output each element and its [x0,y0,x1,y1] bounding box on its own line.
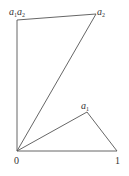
segment-0-to-a2 [17,14,96,151]
label-origin: 0 [14,155,19,166]
label-a1a2: a1a2 [9,6,25,18]
label-a2: a2 [97,6,105,18]
complex-plane-diagram: 0 1 a1 a2 a1a2 [0,0,129,176]
label-a2-sub: 2 [102,12,105,18]
segment-1-to-a1 [87,112,117,151]
segment-0-to-a1 [17,112,87,151]
label-one: 1 [115,155,120,166]
label-a1a2-sub2: 2 [22,12,25,18]
label-a1-sub: 1 [86,106,89,112]
label-a1: a1 [81,100,89,112]
segment-a1a2-to-a2 [17,14,96,20]
